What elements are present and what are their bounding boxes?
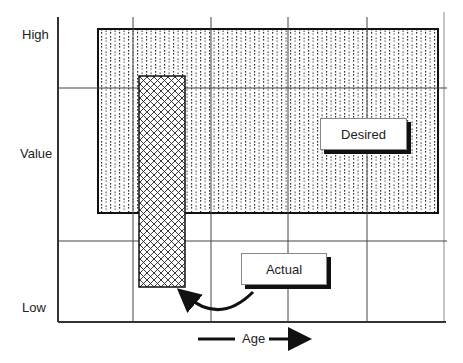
y-axis-high-label: High [22, 27, 49, 42]
actual-callout: Actual [241, 253, 327, 285]
actual-region [139, 76, 185, 287]
y-axis-low-label: Low [22, 300, 46, 315]
value-age-diagram [0, 0, 463, 363]
desired-callout: Desired [320, 118, 407, 150]
x-axis-age-label: Age [242, 331, 265, 346]
curved-arrow-icon [186, 292, 253, 310]
y-axis-value-label: Value [20, 146, 52, 161]
